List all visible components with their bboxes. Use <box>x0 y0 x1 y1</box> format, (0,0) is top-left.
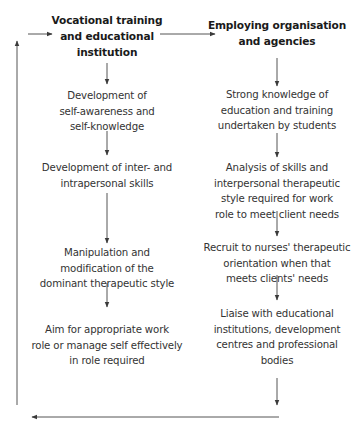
step-text-line: institutions, development <box>197 322 353 338</box>
right-step-4: Liaise with educational institutions, de… <box>197 306 353 368</box>
step-text-line: bodies <box>197 353 353 369</box>
step-text-line: dominant therapeutic style <box>22 276 192 292</box>
step-text-line: self-knowledge <box>27 119 187 135</box>
step-text-line: orientation when that <box>192 256 353 272</box>
left-heading-line: Vocational training <box>37 12 177 28</box>
left-heading: Vocational training and educational inst… <box>37 12 177 60</box>
left-step-4: Aim for appropriate work role or manage … <box>22 322 192 369</box>
step-text-line: self-awareness and <box>27 104 187 120</box>
step-text-line: undertaken by students <box>197 118 353 134</box>
step-text-line: Development of inter- and <box>22 160 192 176</box>
step-text-line: Recruit to nurses' therapeutic <box>192 240 353 256</box>
left-heading-line: institution <box>37 44 177 60</box>
step-text-line: role to meet client needs <box>197 207 353 223</box>
right-heading-line: Employing organisation <box>202 17 352 33</box>
step-text-line: interpersonal therapeutic <box>197 176 353 192</box>
step-text-line: Liaise with educational <box>197 306 353 322</box>
step-text-line: Strong knowledge of <box>197 87 353 103</box>
right-step-1: Strong knowledge of education and traini… <box>197 87 353 134</box>
step-text-line: style required for work <box>197 191 353 207</box>
left-step-1: Development of self-awareness and self-k… <box>27 88 187 135</box>
step-text-line: Aim for appropriate work <box>22 322 192 338</box>
step-text-line: meets clients' needs <box>192 271 353 287</box>
flow-diagram: Vocational training and educational inst… <box>0 0 353 433</box>
step-text-line: education and training <box>197 103 353 119</box>
left-heading-line: and educational <box>37 28 177 44</box>
step-text-line: modification of the <box>22 261 192 277</box>
step-text-line: Analysis of skills and <box>197 160 353 176</box>
left-step-2: Development of inter- and intrapersonal … <box>22 160 192 191</box>
right-step-3: Recruit to nurses' therapeutic orientati… <box>192 240 353 287</box>
right-heading: Employing organisation and agencies <box>202 17 352 49</box>
step-text-line: Manipulation and <box>22 245 192 261</box>
right-heading-line: and agencies <box>202 33 352 49</box>
step-text-line: intrapersonal skills <box>22 176 192 192</box>
right-step-2: Analysis of skills and interpersonal the… <box>197 160 353 222</box>
left-step-3: Manipulation and modification of the dom… <box>22 245 192 292</box>
step-text-line: in role required <box>22 353 192 369</box>
step-text-line: role or manage self effectively <box>22 338 192 354</box>
step-text-line: Development of <box>27 88 187 104</box>
step-text-line: centres and professional <box>197 337 353 353</box>
